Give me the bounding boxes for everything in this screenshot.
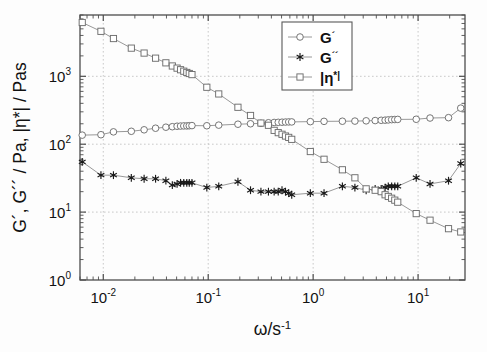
marker-square [413,211,419,217]
x-tick-labels: 10-210-1100101 [90,287,429,306]
marker-square [247,112,253,118]
marker-star [235,178,242,186]
marker-circle [204,122,211,129]
marker-square [258,120,264,126]
plot-border [80,15,465,280]
data-series-layer [79,19,464,235]
x-tick-label: 101 [407,287,430,306]
marker-square [128,45,134,51]
y-tick-labels: 100101102103 [49,66,72,289]
x-tick-label: 10-1 [195,287,221,306]
marker-circle [321,118,328,125]
marker-square [307,148,313,154]
marker-circle [352,118,359,125]
star-center [459,162,462,165]
plot-frame [80,15,465,280]
legend: G´G´´|η*| [282,22,352,90]
marker-star [413,174,420,182]
marker-square [363,186,369,192]
marker-square [321,156,327,162]
star-center [206,186,209,189]
star-center [260,190,263,193]
marker-square [339,167,345,173]
star-center [81,161,84,164]
marker-circle [247,120,254,127]
series-markers [79,19,464,235]
grid-lines [80,15,465,280]
marker-square [427,217,433,223]
y-tick-label: 102 [49,134,72,153]
star-center [143,177,146,180]
series-3 [79,19,464,235]
star-center [396,185,399,188]
x-axis-title: ω/s-1 [254,319,292,339]
series-2 [79,158,464,199]
star-center [217,185,220,188]
star-center [165,179,168,182]
star-center [237,180,240,183]
star-center [290,194,293,197]
star-center [249,189,252,192]
star-center [447,179,450,182]
marker-circle [235,121,242,128]
star-center [112,174,115,177]
marker-square [204,84,210,90]
star-center [267,190,270,193]
marker-square [458,229,464,235]
star-center [429,183,432,186]
marker-square [110,35,116,41]
marker-circle [98,131,105,138]
marker-circle [457,105,464,112]
star-center [130,177,133,180]
marker-circle [189,122,196,129]
y-tick-label: 101 [49,202,72,221]
marker-circle [288,119,295,126]
marker-circle [152,125,159,132]
marker-square [372,187,378,193]
star-center [299,56,302,59]
marker-circle [307,118,314,125]
star-center [171,184,174,187]
marker-square [152,55,158,61]
marker-circle [445,114,452,121]
marker-square [216,91,222,97]
marker-circle [413,116,420,123]
star-center [100,174,103,177]
legend-box [282,22,352,90]
axis-ticks [80,15,465,280]
marker-circle [141,127,148,134]
marker-circle [79,132,86,139]
marker-square [235,104,241,110]
marker-circle [427,115,434,122]
star-center [191,182,194,185]
star-center [309,192,312,195]
y-tick-label: 103 [49,66,72,85]
marker-square [352,175,358,181]
chart-screenshot: 10-210-1100101 100101102103 ω/s-1G´, G´´… [0,0,487,352]
marker-circle [215,122,222,129]
star-center [415,177,418,180]
marker-circle [110,129,117,136]
y-tick-label: 100 [49,270,72,289]
marker-square [163,60,169,66]
marker-circle [128,128,135,135]
marker-square [79,19,85,25]
star-center [354,186,357,189]
marker-square [445,226,451,232]
rheology-frequency-sweep-chart: 10-210-1100101 100101102103 ω/s-1G´, G´´… [0,0,487,352]
marker-square [289,136,295,142]
marker-circle [163,124,170,131]
marker-circle [339,118,346,125]
star-center [154,177,157,180]
x-tick-label: 10-2 [90,287,116,306]
x-tick-label: 100 [302,287,325,306]
star-center [273,190,276,193]
y-axis-title: G´, G´´ / Pa, |η*| / Pas [10,62,30,233]
marker-square [297,74,303,80]
marker-circle [297,34,304,41]
marker-circle [394,116,401,123]
marker-square [141,50,147,56]
star-center [323,192,326,195]
marker-square [395,199,401,205]
marker-square [98,28,104,34]
